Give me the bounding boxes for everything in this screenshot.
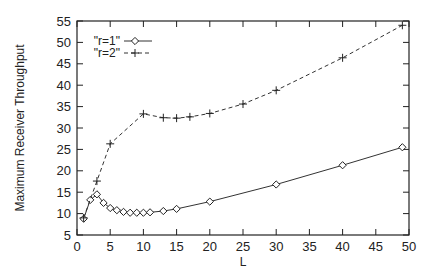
legend-label: "r=2" [94,46,120,60]
data-point-plus [272,86,280,94]
data-point-diamond [173,205,180,212]
series-line [84,147,403,218]
y-tick-label: 35 [57,99,71,114]
y-tick-label: 55 [57,14,71,29]
data-point-plus [106,140,114,148]
y-tick-label: 10 [57,206,71,221]
y-tick-label: 30 [57,121,71,136]
data-point-plus [186,113,194,121]
data-point-diamond [339,162,346,169]
x-tick-label: 25 [236,239,250,254]
data-point-diamond [146,209,153,216]
y-tick-label: 50 [57,35,71,50]
data-point-diamond [160,207,167,214]
data-point-plus [131,49,139,57]
data-point-plus [159,114,167,122]
series-2 [80,21,407,222]
y-tick-label: 40 [57,78,71,93]
x-tick-label: 45 [369,239,383,254]
y-tick-label: 20 [57,163,71,178]
chart: 0510152025303540455051015202530354045505… [0,0,426,276]
x-tick-label: 35 [302,239,316,254]
x-tick-label: 10 [136,239,150,254]
data-point-diamond [273,181,280,188]
data-point-plus [206,109,214,117]
x-tick-label: 50 [402,239,416,254]
data-point-diamond [120,208,127,215]
x-tick-label: 40 [335,239,349,254]
data-point-diamond [131,37,138,44]
series-1 [80,144,406,223]
data-point-plus [80,214,88,222]
x-tick-label: 15 [169,239,183,254]
data-point-plus [173,114,181,122]
data-point-plus [339,54,347,62]
data-point-diamond [140,209,147,216]
y-tick-label: 5 [64,228,71,243]
series-layer [80,21,407,222]
data-point-diamond [206,198,213,205]
x-tick-label: 20 [203,239,217,254]
y-tick-label: 25 [57,142,71,157]
x-tick-label: 30 [269,239,283,254]
data-point-plus [93,177,101,185]
legend: "r=1""r=2" [94,34,152,60]
x-tick-label: 0 [73,239,80,254]
y-tick-label: 15 [57,185,71,200]
data-point-plus [239,100,247,108]
y-tick-label: 45 [57,56,71,71]
series-line [84,25,403,218]
x-axis-title: L [240,255,247,269]
x-tick-label: 5 [107,239,114,254]
data-point-plus [398,21,406,29]
y-axis-title: Maximum Receiver Throughput [13,44,27,212]
data-point-diamond [113,207,120,214]
